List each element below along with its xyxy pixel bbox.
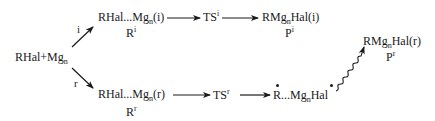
transition-state-i: TSi <box>203 11 219 23</box>
radical-dot-r <box>276 84 279 87</box>
product-i-name: Pi <box>285 27 294 39</box>
branch-label-r: r <box>74 77 78 89</box>
intermediate-r-name: Rr <box>126 106 137 118</box>
intermediate-r-formula: RHal...Mgn(r) <box>98 88 165 100</box>
product-r-formula: RMgnHal(r) <box>363 35 421 47</box>
product-r-name: Pr <box>386 51 395 63</box>
radical-dot-mg <box>330 84 333 87</box>
radical-pair-formula: R...MgnHal <box>273 89 328 101</box>
reactant-label: RHal+Mgn <box>15 51 68 63</box>
intermediate-i-formula: RHal...Mgn(i) <box>98 11 164 23</box>
product-i-formula: RMgnHal(i) <box>262 11 319 23</box>
branch-label-i: i <box>77 23 80 35</box>
arrow-to-intermediate-i <box>72 27 93 47</box>
reaction-scheme-diagram: RHal+Mgn i r RHal...Mgn(i) Ri TSi RMgnHa… <box>0 0 435 121</box>
intermediate-i-name: Ri <box>126 27 136 39</box>
transition-state-r: TSr <box>213 89 230 101</box>
wavy-arrow-to-product-r <box>336 47 364 91</box>
